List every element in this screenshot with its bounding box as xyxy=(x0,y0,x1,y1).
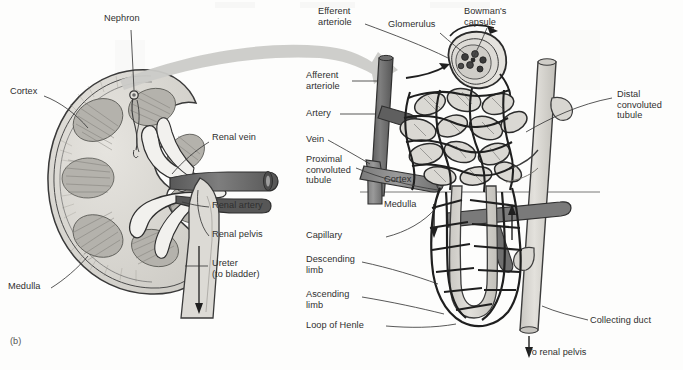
label-descending-limb: Descending limb xyxy=(306,254,355,275)
figure-kidney-nephron: Nephron Cortex Renal vein Renal artery R… xyxy=(0,0,683,370)
label-proximal-convoluted-tubule: Proximal convoluted tubule xyxy=(306,154,351,186)
label-renal-pelvis: Renal pelvis xyxy=(212,229,263,240)
label-medulla: Medulla xyxy=(8,281,41,292)
label-renal-artery: Renal artery xyxy=(212,200,263,211)
label-to-renal-pelvis: To renal pelvis xyxy=(527,347,586,358)
scan-bleed-artifact xyxy=(115,2,600,90)
label-bowmans-capsule: Bowman's capsule xyxy=(464,6,507,27)
leader-collecting-duct xyxy=(542,306,588,320)
renal-vein-vessel xyxy=(170,172,278,192)
label-artery: Artery xyxy=(306,108,331,119)
label-glomerulus: Glomerulus xyxy=(388,19,435,30)
label-ureter: Ureter (to bladder) xyxy=(212,258,260,279)
label-ascending-limb: Ascending limb xyxy=(306,289,349,310)
label-cortex-nephron: Cortex xyxy=(384,174,411,185)
label-nephron: Nephron xyxy=(104,13,140,24)
label-collecting-duct: Collecting duct xyxy=(590,315,651,326)
label-cortex: Cortex xyxy=(10,86,37,97)
label-medulla-nephron: Medulla xyxy=(384,199,417,210)
label-distal-convoluted-tubule: Distal convoluted tubule xyxy=(617,89,662,121)
label-afferent-arteriole: Afferent arteriole xyxy=(306,70,340,91)
leader-capillary xyxy=(386,208,436,237)
leader-loop-of-henle xyxy=(386,324,456,327)
kidney-organ xyxy=(48,70,278,318)
label-renal-vein: Renal vein xyxy=(212,132,256,143)
label-efferent-arteriole: Efferent arteriole xyxy=(318,6,352,27)
panel-tag: (b) xyxy=(10,336,21,346)
leader-descending-limb xyxy=(362,262,438,284)
label-vein: Vein xyxy=(306,134,324,145)
label-capillary: Capillary xyxy=(306,230,342,241)
label-loop-of-henle: Loop of Henle xyxy=(306,320,364,331)
leader-ascending-limb xyxy=(362,297,444,314)
